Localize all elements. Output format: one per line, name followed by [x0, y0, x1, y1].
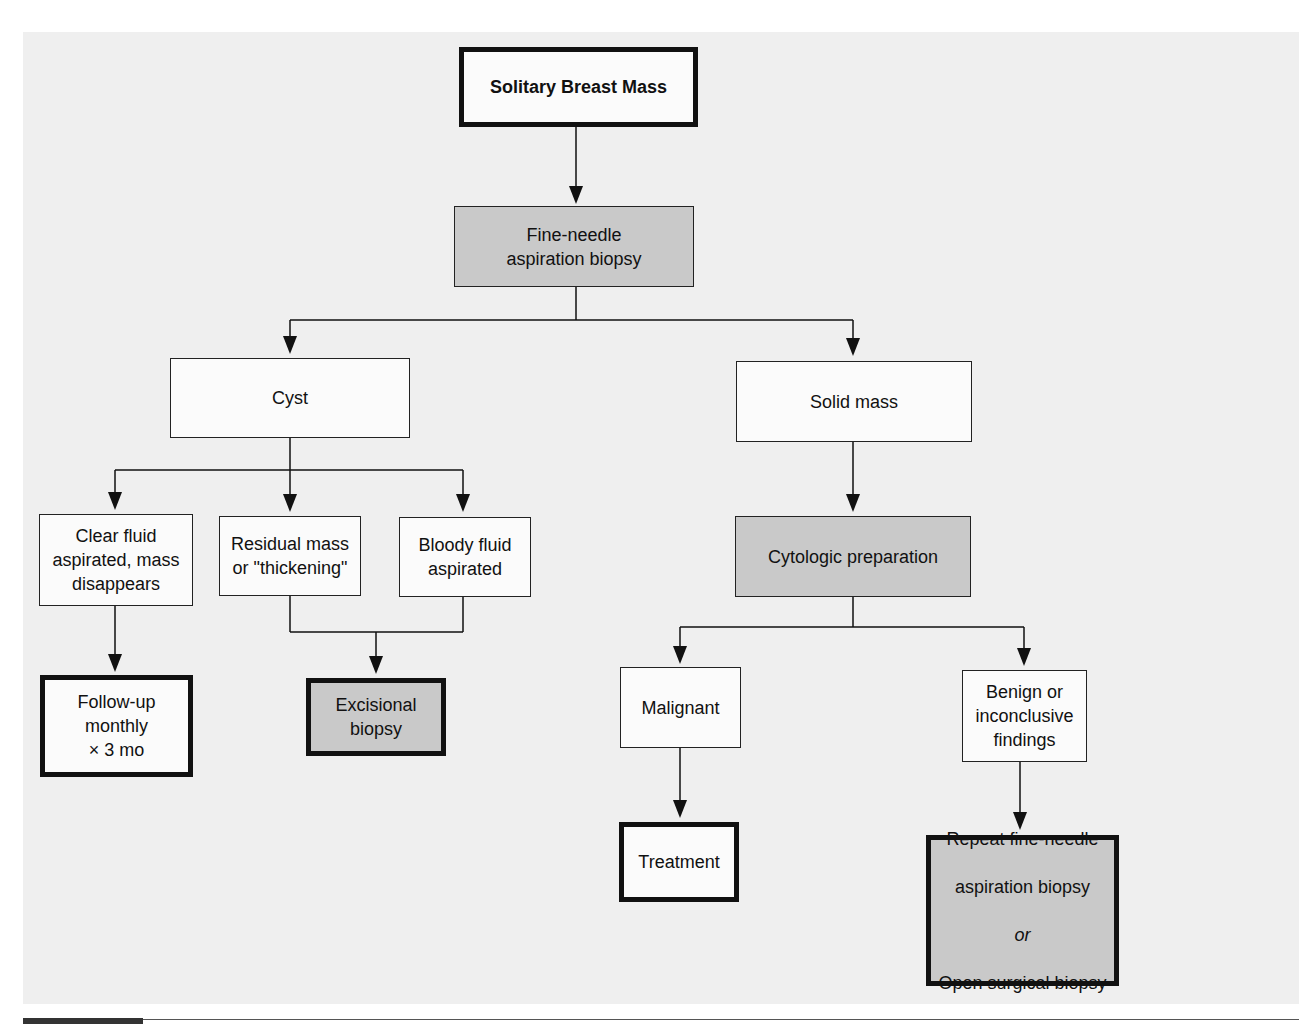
page-bottom-rule — [23, 1019, 1299, 1020]
node-excisional-biopsy: Excisional biopsy — [306, 678, 446, 756]
node-residual-mass: Residual mass or "thickening" — [219, 516, 361, 596]
node-fine-needle-aspiration-biopsy: Fine-needle aspiration biopsy — [454, 206, 694, 287]
node-solid-mass: Solid mass — [736, 361, 972, 442]
or-connector: or — [938, 923, 1106, 947]
node-clear-fluid-aspirated: Clear fluid aspirated, mass disappears — [39, 514, 193, 606]
node-malignant: Malignant — [620, 667, 741, 748]
node-repeat-biopsy: Repeat fine-needle aspiration biopsy or … — [926, 835, 1119, 986]
node-cyst: Cyst — [170, 358, 410, 438]
node-cytologic-preparation: Cytologic preparation — [735, 516, 971, 597]
repeat-biopsy-text: Repeat fine-needle aspiration biopsy or … — [938, 803, 1106, 1019]
page-bottom-rule-tab — [23, 1018, 143, 1024]
node-treatment: Treatment — [619, 822, 739, 902]
node-solitary-breast-mass: Solitary Breast Mass — [459, 47, 698, 127]
node-benign-or-inconclusive: Benign or inconclusive findings — [962, 670, 1087, 762]
node-bloody-fluid-aspirated: Bloody fluid aspirated — [399, 517, 531, 597]
node-follow-up-monthly: Follow-up monthly × 3 mo — [40, 675, 193, 777]
